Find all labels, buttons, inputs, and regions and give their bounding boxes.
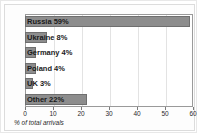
bar-label-poland: Poland 4% xyxy=(27,61,65,77)
x-tick-label-60: 60 xyxy=(189,110,196,117)
x-tick-label-0: 0 xyxy=(23,110,27,117)
bar-label-uk: UK 3% xyxy=(27,76,51,92)
x-axis: 0102030405060 xyxy=(25,107,193,119)
x-tick-label-50: 50 xyxy=(161,110,168,117)
bar-row[interactable]: Other 22% xyxy=(25,92,193,108)
bar-row[interactable]: Poland 4% xyxy=(25,61,193,77)
bar-chart: Russia 59%Ukraine 8%Germany 4%Poland 4%U… xyxy=(13,13,194,130)
bar-row[interactable]: Ukraine 8% xyxy=(25,30,193,46)
bar-row[interactable]: UK 3% xyxy=(25,76,193,92)
bar-label-ukraine: Ukraine 8% xyxy=(27,30,67,46)
x-tick-label-40: 40 xyxy=(133,110,140,117)
x-tick-label-20: 20 xyxy=(77,110,84,117)
x-tick-label-10: 10 xyxy=(49,110,56,117)
bar-label-germany: Germany 4% xyxy=(27,45,72,61)
x-tick-label-30: 30 xyxy=(105,110,112,117)
x-axis-label: % of total arrivals xyxy=(14,119,64,126)
bar-row[interactable]: Germany 4% xyxy=(25,45,193,61)
bar-row[interactable]: Russia 59% xyxy=(25,14,193,30)
chart-inner-frame: Russia 59%Ukraine 8%Germany 4%Poland 4%U… xyxy=(4,4,195,131)
bar-label-other: Other 22% xyxy=(27,92,64,108)
chart-frame: Russia 59%Ukraine 8%Germany 4%Poland 4%U… xyxy=(0,0,197,133)
bar-label-russia: Russia 59% xyxy=(27,14,69,30)
